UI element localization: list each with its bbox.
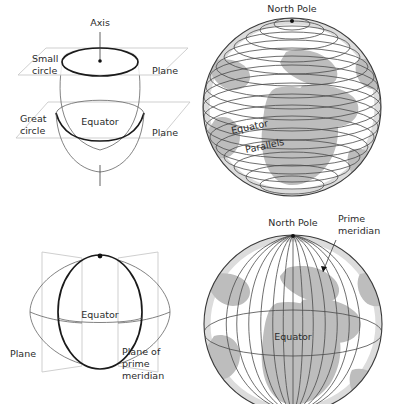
prime-meridian-label-line1: Prime	[338, 213, 365, 224]
small-great-circle-drawing: Axis Small circle Plane Great circle Equ…	[0, 0, 200, 200]
north-pole-dot-tr	[290, 19, 294, 23]
upper-plane-label: Plane	[152, 65, 178, 76]
prime-meridian-plane-label-line3: meridian	[122, 370, 164, 381]
great-circle-label-line2: circle	[20, 125, 45, 136]
left-plane-shape	[42, 252, 82, 372]
equator-label-br: Equator	[274, 331, 311, 342]
prime-meridian-plane-label-line2: prime	[122, 358, 150, 369]
axis-label: Axis	[90, 17, 110, 28]
equator-label-bl: Equator	[81, 309, 118, 320]
north-pole-label-tr: North Pole	[267, 3, 316, 14]
north-pole-dot-bl	[98, 254, 103, 259]
land-madagascar-br	[350, 369, 381, 403]
panel-prime-meridian-plane: Equator Plane Plane of prime meridian	[0, 200, 200, 404]
panel-parallels-globe: North Pole Equator Parallels	[190, 0, 401, 205]
meridians-globe-drawing: North Pole Prime meridian Equator	[190, 200, 401, 404]
prime-meridian-plane-drawing: Equator Plane Plane of prime meridian	[0, 200, 200, 404]
north-pole-dot-br	[291, 234, 295, 238]
small-circle-label-line1: Small	[32, 53, 58, 64]
equator-label-tl: Equator	[81, 116, 118, 127]
small-circle-label-line2: circle	[32, 65, 57, 76]
north-pole-label-br: North Pole	[268, 217, 317, 228]
great-circle-label-line1: Great	[20, 113, 47, 124]
panel-meridians-globe: North Pole Prime meridian Equator	[190, 200, 401, 404]
prime-meridian-plane-label-line1: Plane of	[122, 346, 161, 357]
prime-meridian-label-line2: meridian	[338, 225, 380, 236]
parallels-globe-drawing: North Pole Equator Parallels	[190, 0, 401, 205]
plane-label-bl: Plane	[10, 348, 36, 359]
panel-small-and-great-circle: Axis Small circle Plane Great circle Equ…	[0, 0, 200, 200]
axis-point-dot	[98, 59, 102, 63]
lower-plane-label: Plane	[152, 127, 178, 138]
